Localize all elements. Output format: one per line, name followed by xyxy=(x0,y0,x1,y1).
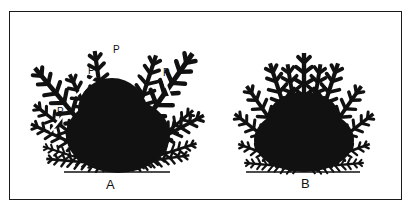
prune-marker: P xyxy=(88,65,95,76)
illustration: P P P P xyxy=(0,0,412,210)
prune-marker: P xyxy=(113,44,120,55)
shrub-b-core-upper xyxy=(268,92,340,144)
shrub-a: P P P P xyxy=(24,44,209,173)
prune-marker: P xyxy=(57,106,64,117)
prune-cut-line xyxy=(120,56,141,74)
shrub-a-core-upper xyxy=(78,78,146,142)
shrub-b xyxy=(228,53,380,176)
shrub-a-label: A xyxy=(106,177,115,192)
shrub-b-label: B xyxy=(301,176,310,191)
prune-marker: P xyxy=(163,67,170,78)
